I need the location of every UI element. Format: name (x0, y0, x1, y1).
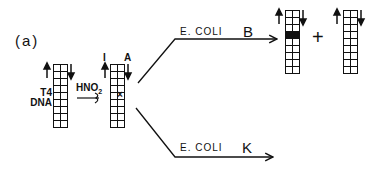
branch-b-arrow (138, 39, 277, 83)
strand-arrows-product2 (334, 9, 364, 25)
strand-arrows-product1 (276, 9, 306, 25)
branch-k-arrow (136, 108, 273, 157)
strand-arrows-start (44, 63, 74, 79)
diagram-lines (0, 0, 383, 178)
hno2-arrow (77, 93, 99, 103)
strand-arrows-deaminated (102, 63, 131, 79)
